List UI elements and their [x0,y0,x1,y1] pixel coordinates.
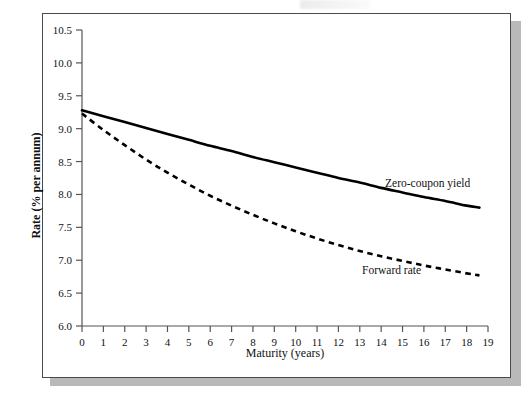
y-axis-tick-label: 10.5 [30,24,72,36]
y-axis-tick-label: 10.0 [30,57,72,69]
y-axis-title: Rate (% per annum) [29,106,44,266]
series-annotation-forward-rate: Forward rate [362,264,421,276]
series-annotation-zero-coupon-yield: Zero-coupon yield [385,177,470,189]
y-axis-tick-label: 6.5 [30,287,72,299]
y-axis-tick-label: 6.0 [30,320,72,332]
chart-plot-area: 6.06.57.07.58.08.59.09.510.010.5 0123456… [0,0,528,401]
series-lines [82,110,479,275]
y-axis-tick-marks [76,30,82,326]
series-line-zero-coupon-yield [82,110,479,207]
y-axis-tick-label: 9.5 [30,90,72,102]
series-line-forward-rate [82,114,479,276]
x-axis-title: Maturity (years) [82,346,488,361]
x-axis-tick-marks [82,326,488,332]
